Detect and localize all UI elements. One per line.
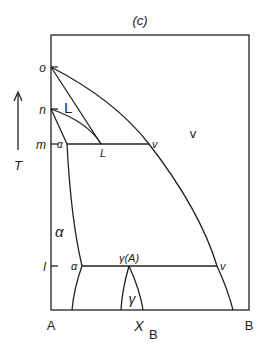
component-b-label: B [245, 318, 254, 333]
mark-m: m [36, 138, 46, 152]
diagram-title: (c) [132, 13, 147, 28]
composition-axis-subscript: B [149, 327, 158, 342]
point-m-alpha: α [57, 139, 63, 150]
alpha-boundary [67, 144, 82, 266]
alpha-lower-boundary [72, 266, 82, 310]
region-gamma-label: γ [129, 291, 137, 307]
point-m-liquid: L [100, 147, 106, 159]
liquidus-line [51, 67, 101, 144]
mark-o: o [39, 61, 46, 75]
point-m-vapor: v [152, 138, 159, 150]
composition-axis-label: X [133, 318, 144, 334]
point-l-alpha: α [71, 260, 78, 272]
region-alpha-label: α [55, 223, 64, 240]
mark-l: l [43, 260, 46, 274]
region-vapor-label: v [190, 126, 197, 141]
mark-n: n [39, 103, 46, 117]
vapor-boundary [51, 67, 233, 310]
region-liquid-label: L [64, 99, 72, 116]
phase-boundaries [51, 67, 233, 310]
point-l-vapor: v [220, 260, 227, 272]
temperature-axis-label: T [14, 158, 23, 173]
temperature-arrow-icon [14, 92, 22, 150]
phase-diagram: (c) T o n m l L v [0, 0, 266, 347]
component-a-label: A [47, 318, 56, 333]
point-l-gamma: γ(A) [119, 252, 140, 264]
